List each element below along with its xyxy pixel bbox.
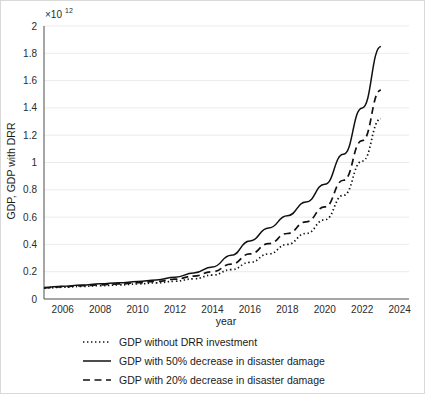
x-tick-label: 2012 [164, 304, 187, 315]
y-tick-label: 1.8 [23, 48, 37, 59]
y-tick-label: 0.4 [23, 239, 37, 250]
legend-item-label: GDP without DRR investment [119, 336, 257, 348]
x-tick-label: 2020 [314, 304, 337, 315]
y-tick-label: 1.2 [23, 130, 37, 141]
x-tick-label: 2024 [389, 304, 412, 315]
x-tick-label: 2010 [126, 304, 149, 315]
y-tick-label: 0.6 [23, 212, 37, 223]
series-line-solid [44, 46, 381, 287]
series-line-dashed [44, 90, 381, 288]
x-tick-label: 2016 [239, 304, 262, 315]
y-axis-tick-labels: 00.20.40.60.811.21.41.61.82 [23, 21, 37, 305]
gridlines [44, 26, 409, 272]
y-axis-multiplier-label: ×10 [45, 9, 62, 20]
x-tick-label: 2018 [276, 304, 299, 315]
y-tick-label: 1.6 [23, 75, 37, 86]
y-tick-label: 0.2 [23, 266, 37, 277]
data-series-group [44, 46, 381, 288]
x-tick-label: 2008 [89, 304, 112, 315]
x-tick-label: 2006 [52, 304, 75, 315]
y-tick-label: 1.4 [23, 102, 37, 113]
legend-item-label: GDP with 20% decrease in disaster damage [119, 374, 325, 386]
y-axis-title: GDP, GDP with DRR [5, 122, 17, 219]
x-tick-label: 2014 [201, 304, 224, 315]
y-tick-label: 1 [31, 157, 37, 168]
y-tick-label: 0 [31, 294, 37, 305]
chart-figure: 00.20.40.60.811.21.41.61.82 200620082010… [0, 0, 425, 394]
x-axis-title: year [216, 315, 237, 327]
chart-legend: GDP without DRR investmentGDP with 50% d… [83, 336, 325, 386]
x-axis-tick-labels: 2006200820102012201420162018202020222024 [52, 304, 412, 315]
y-tick-label: 0.8 [23, 184, 37, 195]
legend-item-label: GDP with 50% decrease in disaster damage [119, 355, 325, 367]
line-chart: 00.20.40.60.811.21.41.61.82 200620082010… [1, 1, 425, 394]
y-axis-multiplier-exponent: 12 [65, 7, 73, 14]
y-tick-label: 2 [31, 21, 37, 32]
x-tick-label: 2022 [351, 304, 374, 315]
